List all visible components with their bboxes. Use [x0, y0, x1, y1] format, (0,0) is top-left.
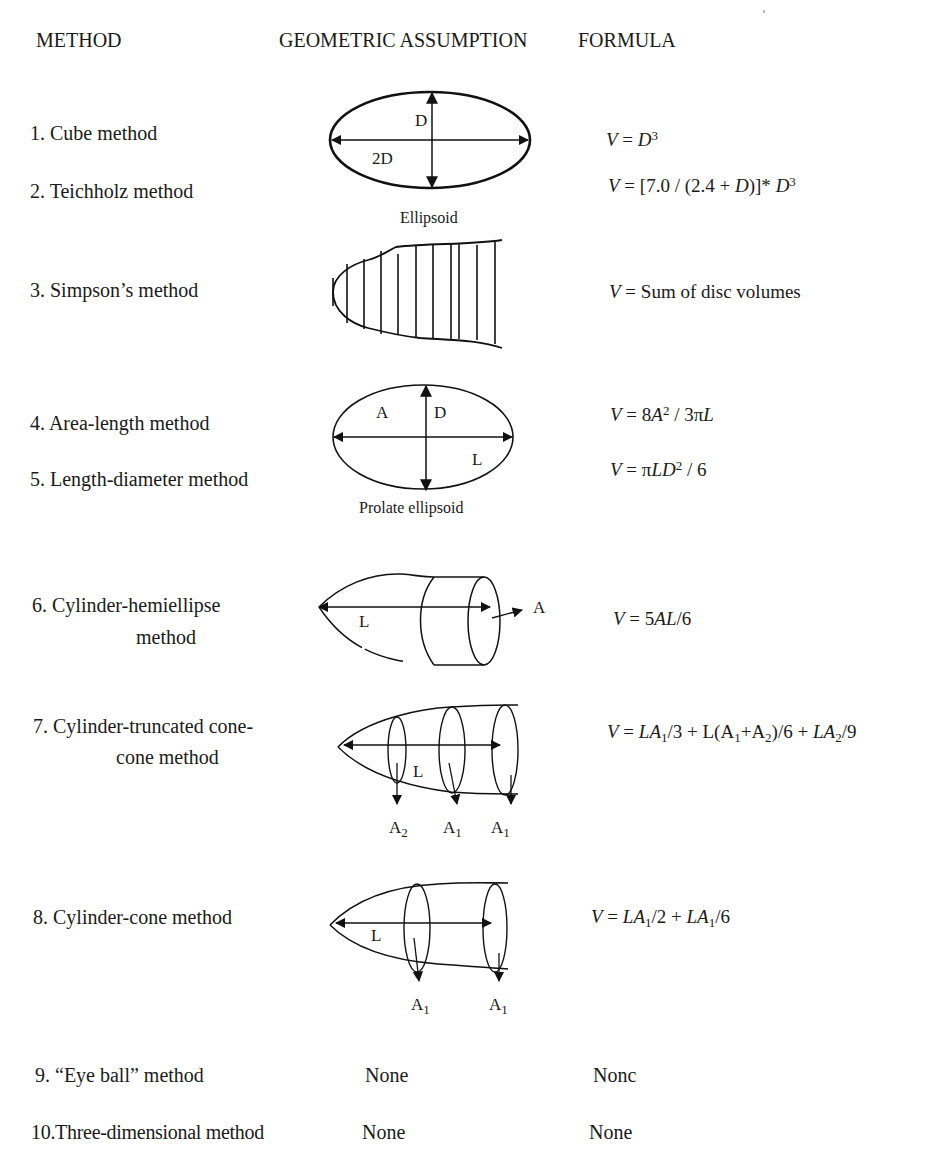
formula-three-dimensional: None [589, 1121, 632, 1144]
cyl-hemi-label-a: A [533, 598, 545, 618]
cyl-trunc-area-a1-mid: A1 [443, 818, 462, 838]
cyl-trunc-label-l: L [413, 762, 423, 782]
prolate-label-l: L [472, 450, 482, 470]
formula-cylinder-truncated-cone: V = LA1/3 + L(A1+A2)/6 + LA2/9 [607, 721, 856, 743]
cyl-trunc-area-a2: A2 [389, 818, 408, 838]
method-simpson: 3. Simpson’s method [30, 279, 198, 302]
formula-cube: V = D3 [606, 129, 658, 151]
header-formula: FORMULA [578, 29, 676, 52]
cylinder-cone-diagram [328, 878, 518, 988]
cyl-hemi-label-l: L [359, 612, 369, 632]
formula-area-length: V = 8A2 / 3πL [610, 404, 714, 426]
method-cylinder-hemiellipse-line2: method [136, 626, 196, 649]
cyl-cone-label-l: L [371, 926, 381, 946]
cylinder-hemiellipse-diagram [316, 570, 556, 665]
prolate-label-d: D [434, 403, 446, 423]
ellipsoid-diagram [328, 90, 532, 190]
prolate-ellipsoid-diagram [331, 384, 515, 492]
header-geometric-assumption: GEOMETRIC ASSUMPTION [279, 29, 527, 52]
cyl-cone-area-a1-left: A1 [411, 995, 430, 1015]
cylinder-truncated-cone-diagram [336, 700, 526, 810]
cyl-cone-area-a1-right: A1 [489, 995, 508, 1015]
simpson-discs-diagram [330, 240, 505, 355]
formula-teichholz: V = [7.0 / (2.4 + D)]* D3 [608, 175, 796, 197]
method-cylinder-cone: 8. Cylinder-cone method [33, 906, 232, 929]
method-teichholz: 2. Teichholz method [30, 180, 193, 203]
method-three-dimensional: 10.Three-dimensional method [31, 1121, 264, 1144]
geometry-three-dimensional: None [362, 1121, 405, 1144]
method-length-diameter: 5. Length-diameter method [30, 468, 248, 491]
method-cube: 1. Cube method [30, 122, 157, 145]
ellipsoid-caption: Ellipsoid [400, 209, 458, 227]
formula-cylinder-hemiellipse: V = 5AL/6 [613, 608, 691, 630]
method-area-length: 4. Area-length method [30, 412, 209, 435]
scan-speck [763, 10, 765, 13]
formula-length-diameter: V = πLD2 / 6 [610, 459, 707, 481]
method-eye-ball: 9. “Eye ball” method [35, 1064, 204, 1087]
formula-simpson: V = Sum of disc volumes [609, 281, 801, 303]
prolate-label-a: A [376, 403, 388, 423]
ellipsoid-label-2d: 2D [372, 149, 393, 169]
geometry-eye-ball: None [365, 1064, 408, 1087]
ellipsoid-label-d: D [415, 111, 427, 131]
method-cylinder-truncated-cone-line2: cone method [116, 746, 219, 769]
header-method: METHOD [36, 29, 122, 52]
formula-cylinder-cone: V = LA1/2 + LA1/6 [591, 906, 730, 928]
method-cylinder-truncated-cone-line1: 7. Cylinder-truncated cone- [33, 715, 253, 738]
method-cylinder-hemiellipse-line1: 6. Cylinder-hemiellipse [32, 594, 220, 617]
cyl-trunc-area-a1-end: A1 [491, 818, 510, 838]
prolate-caption: Prolate ellipsoid [359, 499, 463, 517]
formula-eye-ball: Nonc [593, 1064, 636, 1087]
